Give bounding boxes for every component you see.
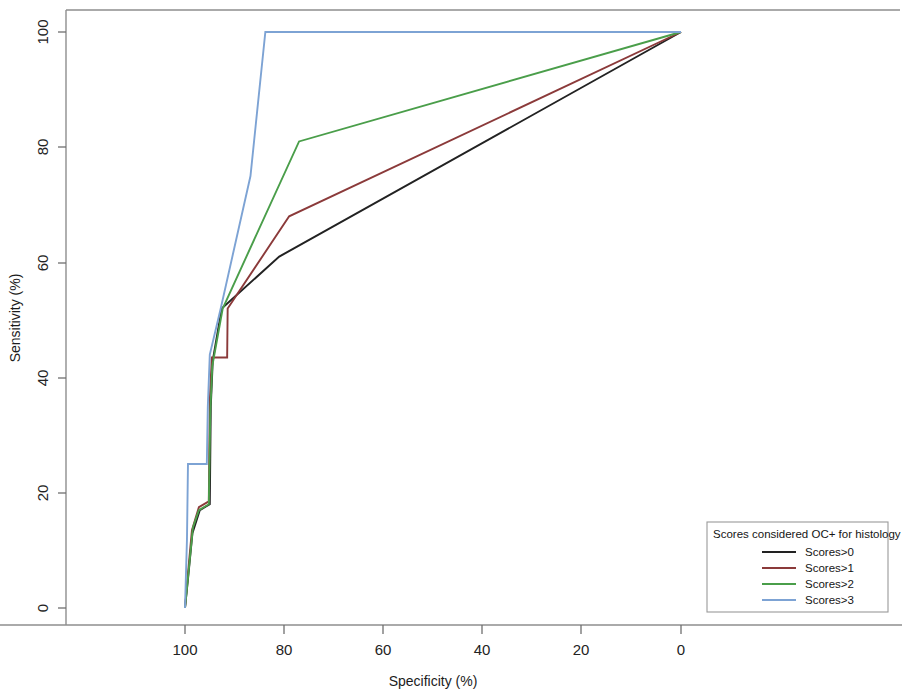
roc-curve-scores-3 <box>185 32 681 608</box>
x-axis-title: Specificity (%) <box>389 673 478 689</box>
y-axis-ticks <box>58 32 66 608</box>
roc-curve-scores-1 <box>185 32 681 608</box>
x-axis-ticks <box>185 625 681 634</box>
x-tick-label-100: 100 <box>172 641 197 658</box>
y-axis-tick-labels: 0 20 40 60 80 100 <box>34 19 51 612</box>
legend-title: Scores considered OC+ for histology <box>713 528 901 540</box>
y-tick-label-60: 60 <box>34 255 51 272</box>
roc-chart-figure: 0 20 40 60 80 100 Sensitivity (%) 100 80… <box>0 0 902 691</box>
legend-label-scores-0: Scores>0 <box>805 546 854 558</box>
legend-label-scores-1: Scores>1 <box>805 562 854 574</box>
x-tick-label-80: 80 <box>276 641 293 658</box>
legend-label-scores-2: Scores>2 <box>805 578 854 590</box>
x-axis-tick-labels: 100 80 60 40 20 0 <box>172 641 685 658</box>
x-tick-label-60: 60 <box>375 641 392 658</box>
legend-label-scores-3: Scores>3 <box>805 594 854 606</box>
y-tick-label-80: 80 <box>34 139 51 156</box>
y-tick-label-0: 0 <box>34 604 51 612</box>
roc-plot-svg: 0 20 40 60 80 100 Sensitivity (%) 100 80… <box>0 0 902 691</box>
x-tick-label-20: 20 <box>573 641 590 658</box>
x-tick-label-0: 0 <box>677 641 685 658</box>
roc-curve-scores-0 <box>185 32 681 608</box>
legend: Scores considered OC+ for histology Scor… <box>707 522 901 612</box>
x-tick-label-40: 40 <box>474 641 491 658</box>
roc-curves-layer <box>185 32 681 608</box>
y-axis-title: Sensitivity (%) <box>7 274 23 363</box>
y-tick-label-20: 20 <box>34 485 51 502</box>
y-tick-label-40: 40 <box>34 370 51 387</box>
y-tick-label-100: 100 <box>34 19 51 44</box>
roc-curve-scores-2 <box>185 32 681 608</box>
